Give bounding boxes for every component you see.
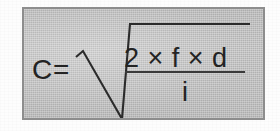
fraction-denominator: i xyxy=(182,79,188,106)
fraction-bar xyxy=(125,71,245,73)
screenshot-root: C = 2 × f × d i xyxy=(0,0,280,131)
formula-panel: C = 2 × f × d i xyxy=(22,7,265,120)
equation-left-variable: C xyxy=(32,56,52,84)
fraction-numerator: 2 × f × d xyxy=(124,45,228,72)
equation-equals-sign: = xyxy=(53,56,69,84)
